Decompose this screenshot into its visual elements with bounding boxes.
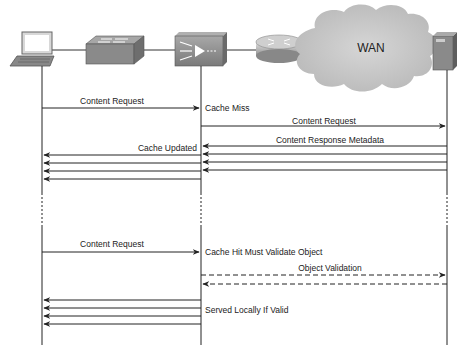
svg-text:Object Validation: Object Validation [298,263,362,273]
message-content-request-3: Content Request [42,239,199,252]
svg-text:Content Request: Content Request [292,116,356,126]
svg-text:Content Request: Content Request [80,96,144,106]
caching-sequence-diagram: WAN Content Request Cache Miss Content R… [0,0,470,357]
router-icon [256,35,302,63]
svg-text:Content Request: Content Request [80,239,144,249]
note-cache-miss: Cache Miss [205,103,249,113]
wan-cloud-icon: WAN [295,5,436,92]
note-served-locally: Served Locally If Valid [205,305,289,315]
cache-engine-icon [175,32,227,66]
wan-label: WAN [357,41,385,55]
message-cache-updated-response: Cache Updated [44,143,201,179]
message-content-response-metadata: Content Response Metadata [203,135,447,170]
note-cache-hit-validate: Cache Hit Must Validate Object [205,247,323,257]
svg-text:Cache Updated: Cache Updated [138,143,197,153]
message-served-locally [44,300,201,324]
message-object-validation: Object Validation [201,263,447,284]
svg-text:Content Response Metadata: Content Response Metadata [276,135,384,145]
server-icon [433,32,457,70]
message-content-request-1: Content Request [42,96,199,108]
message-content-request-2: Content Request [201,116,445,126]
switch-icon [86,36,144,64]
laptop-icon [10,32,54,66]
